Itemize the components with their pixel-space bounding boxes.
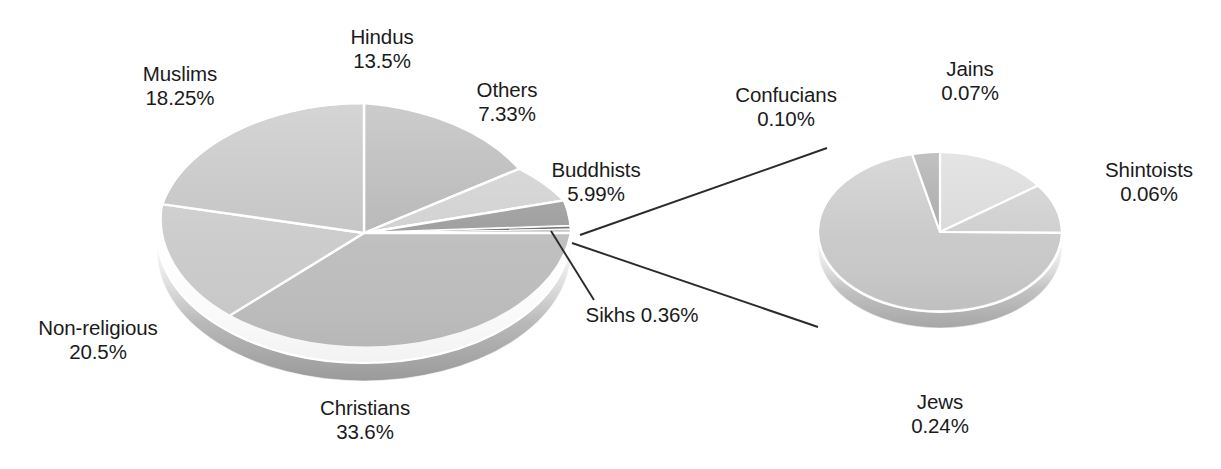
label-muslims: Muslims 18.25%	[118, 62, 242, 110]
label-christians-value: 33.6%	[298, 420, 432, 444]
label-non-religious: Non-religious 20.5%	[18, 316, 178, 364]
label-others-name: Others	[452, 78, 562, 102]
label-shintoists: Shintoists 0.06%	[1083, 158, 1215, 206]
label-others: Others 7.33%	[452, 78, 562, 126]
label-jains-name: Jains	[915, 57, 1025, 81]
label-jews: Jews 0.24%	[880, 390, 1000, 438]
label-sikhs-text: Sikhs 0.36%	[572, 303, 712, 327]
label-shintoists-name: Shintoists	[1083, 158, 1215, 182]
label-confucians-value: 0.10%	[716, 107, 856, 131]
label-christians: Christians 33.6%	[298, 396, 432, 444]
main-pie-sheen	[157, 103, 571, 363]
label-hindus-value: 13.5%	[320, 49, 444, 73]
label-muslims-value: 18.25%	[118, 86, 242, 110]
label-buddhists-value: 5.99%	[533, 182, 659, 206]
label-others-value: 7.33%	[452, 102, 562, 126]
label-shintoists-value: 0.06%	[1083, 182, 1215, 206]
label-muslims-name: Muslims	[118, 62, 242, 86]
label-jains-value: 0.07%	[915, 81, 1025, 105]
label-confucians: Confucians 0.10%	[716, 83, 856, 131]
chart-canvas: Muslims 18.25% Hindus 13.5% Others 7.33%…	[0, 0, 1221, 469]
label-hindus: Hindus 13.5%	[320, 25, 444, 73]
label-jews-value: 0.24%	[880, 414, 1000, 438]
label-confucians-name: Confucians	[716, 83, 856, 107]
label-non-religious-value: 20.5%	[18, 340, 178, 364]
label-buddhists: Buddhists 5.99%	[533, 158, 659, 206]
label-buddhists-name: Buddhists	[533, 158, 659, 182]
label-jews-name: Jews	[880, 390, 1000, 414]
label-sikhs: Sikhs 0.36%	[572, 303, 712, 327]
label-christians-name: Christians	[298, 396, 432, 420]
label-hindus-name: Hindus	[320, 25, 444, 49]
label-jains: Jains 0.07%	[915, 57, 1025, 105]
label-non-religious-name: Non-religious	[18, 316, 178, 340]
